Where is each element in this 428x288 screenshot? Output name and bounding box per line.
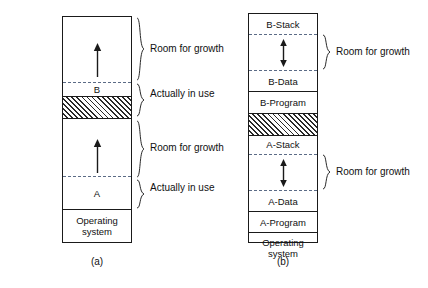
segment-label: A	[94, 188, 100, 199]
segment-process-a: A	[63, 177, 131, 209]
brace-b-room-for-growth	[136, 17, 146, 81]
brace-label-a-room-for-growth-b: Room for growth	[336, 166, 410, 178]
brace-label-a-actually-in-use: Actually in use	[150, 182, 214, 194]
brace-label-a-room-for-growth: Room for growth	[150, 142, 224, 154]
segment-a-program: A-Program	[249, 211, 317, 232]
segment-b-program: B-Program	[249, 91, 317, 113]
brace-a-actually-in-use	[136, 179, 146, 209]
brace-label-b-room-for-growth: Room for growth	[150, 43, 224, 55]
segment-label: B-Program	[260, 97, 306, 108]
segment-hole-hatched	[63, 96, 131, 119]
segment-label: A-Stack	[266, 139, 299, 150]
caption-panel-b: (b)	[248, 256, 318, 268]
brace-b-actually-in-use	[136, 83, 146, 117]
segment-a-data: A-Data	[249, 191, 317, 211]
memory-allocation-figure: B A Operating system Room for growth Act…	[0, 0, 428, 288]
memory-column-b: B-Stack B-Data B-Program A-Stack	[248, 13, 318, 243]
segment-label: Operating system	[76, 215, 118, 237]
brace-label-b-room-for-growth-b: Room for growth	[336, 46, 410, 58]
segment-operating-system: Operating system	[63, 209, 131, 241]
segment-a-stack: A-Stack	[249, 134, 317, 155]
memory-column-a: B A Operating system	[62, 16, 132, 243]
growth-arrow-b-double-icon	[278, 39, 289, 67]
growth-arrow-a-icon	[92, 139, 103, 173]
brace-label-b-actually-in-use: Actually in use	[150, 88, 214, 100]
caption-panel-a: (a)	[62, 256, 132, 268]
growth-arrow-a-double-icon	[278, 159, 289, 187]
growth-arrow-b-icon	[92, 43, 103, 77]
segment-label: A-Program	[260, 217, 306, 228]
brace-a-room-for-growth-b	[322, 154, 332, 190]
segment-label: B	[94, 84, 100, 95]
segment-b-stack: B-Stack	[249, 14, 317, 35]
segment-label: B-Stack	[266, 19, 299, 30]
brace-a-room-for-growth	[136, 120, 146, 178]
segment-process-b-label-area: B	[63, 83, 131, 96]
segment-label: B-Data	[268, 76, 298, 87]
segment-label: A-Data	[268, 196, 298, 207]
brace-b-room-for-growth-b	[322, 34, 332, 70]
segment-b-data: B-Data	[249, 71, 317, 91]
segment-hole-hatched	[249, 113, 317, 136]
